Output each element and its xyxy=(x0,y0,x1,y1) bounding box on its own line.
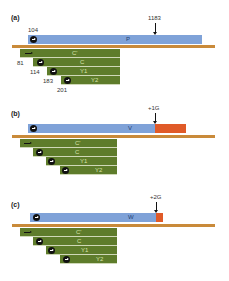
fragment-c: C xyxy=(33,237,117,246)
panel-b-label: (b) xyxy=(11,110,20,117)
start-codon-icon xyxy=(30,36,37,43)
start-codon-icon xyxy=(64,77,71,84)
arrow-icon xyxy=(25,53,31,54)
panel-a-label: (a) xyxy=(11,14,20,21)
fragment-label: Y1 xyxy=(80,157,87,166)
fragment-label: Y2 xyxy=(91,76,98,85)
start-codon-icon xyxy=(33,214,40,221)
fragment-label: C' xyxy=(75,139,80,148)
fragment-label: C xyxy=(75,148,79,157)
genome-line xyxy=(12,224,215,227)
panel-c-label: (c) xyxy=(11,201,20,208)
transcript-label: P xyxy=(126,35,130,44)
fragment-start-label: 114 xyxy=(30,69,40,75)
fragment-c: C xyxy=(33,148,117,157)
arrow-icon xyxy=(24,232,30,233)
stop-position-label: 1183 xyxy=(148,15,161,21)
start-position-label: 104 xyxy=(28,27,38,33)
fragment-c-prime: C' xyxy=(20,228,117,237)
fragment-start-label: 201 xyxy=(57,87,67,93)
transcript-bar-p: P xyxy=(28,35,202,44)
down-arrow-icon xyxy=(155,113,156,122)
transcript-label: W xyxy=(128,213,134,222)
fragment-label: Y1 xyxy=(80,67,87,76)
start-codon-icon xyxy=(62,167,69,174)
start-codon-icon xyxy=(63,256,70,263)
fragment-label: C xyxy=(80,58,84,67)
fragment-label: C xyxy=(77,237,81,246)
fragment-y1: Y1 xyxy=(47,67,120,76)
frameshift-extension xyxy=(155,124,186,133)
insertion-label: +1G xyxy=(148,105,160,111)
arrow-icon xyxy=(24,143,30,144)
down-arrow-icon xyxy=(155,23,156,33)
start-codon-icon xyxy=(48,158,55,165)
fragment-c: C xyxy=(33,58,120,67)
fragment-label: Y2 xyxy=(96,255,103,264)
frameshift-extension xyxy=(156,213,163,222)
insertion-label: +2G xyxy=(150,194,162,200)
start-codon-icon xyxy=(48,247,55,254)
genome-line xyxy=(12,135,215,138)
transcript-bar-v: V xyxy=(28,124,155,133)
fragment-c-prime: C' xyxy=(20,49,120,58)
fragment-label: C' xyxy=(72,49,77,58)
down-arrow-icon xyxy=(156,202,157,211)
fragment-y1: Y1 xyxy=(46,157,117,166)
fragment-start-label: 183 xyxy=(43,78,53,84)
fragment-start-label: 81 xyxy=(17,60,24,66)
fragment-y1: Y1 xyxy=(46,246,117,255)
genome-line xyxy=(12,45,215,48)
transcript-bar-w: W xyxy=(30,213,156,222)
transcript-label: V xyxy=(128,124,132,133)
fragment-c-prime: C' xyxy=(20,139,117,148)
start-codon-icon xyxy=(37,59,44,66)
fragment-label: C' xyxy=(76,228,81,237)
fragment-label: Y2 xyxy=(95,166,102,175)
start-codon-icon xyxy=(36,238,43,245)
start-codon-icon xyxy=(30,125,37,132)
start-codon-icon xyxy=(50,68,57,75)
fragment-label: Y1 xyxy=(81,246,88,255)
start-codon-icon xyxy=(36,149,43,156)
